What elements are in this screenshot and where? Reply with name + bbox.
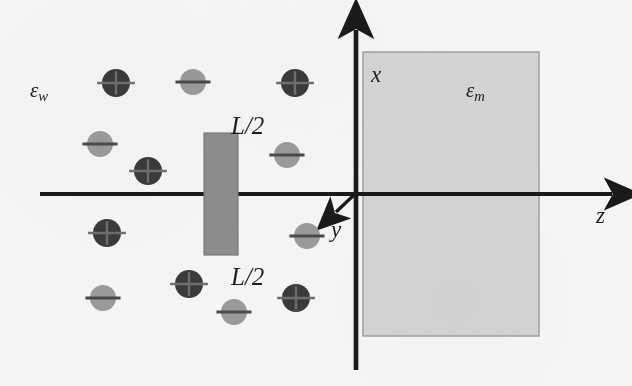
- y-axis-label: y: [331, 218, 341, 241]
- positive-charge-icon: [129, 157, 167, 185]
- epsilon-water-subscript: w: [38, 88, 48, 104]
- negative-charge-icon: [216, 299, 251, 325]
- physics-diagram-figure: εw εm L/2 L/2 x y z: [0, 0, 632, 386]
- diagram-canvas: [0, 0, 632, 386]
- positive-charge-icon: [276, 69, 314, 97]
- negative-charge-icon: [82, 131, 117, 157]
- length-label-top: L/2: [231, 113, 264, 138]
- epsilon-membrane-subscript: m: [474, 88, 485, 104]
- negative-charge-icon: [289, 223, 324, 249]
- epsilon-membrane-label: εm: [466, 80, 485, 104]
- x-axis-label: x: [371, 63, 381, 86]
- charged-slab-bar: [204, 133, 238, 255]
- epsilon-water-label: εw: [30, 80, 48, 104]
- negative-charge-icon: [269, 142, 304, 168]
- positive-charge-icon: [88, 219, 126, 247]
- negative-charge-icon: [175, 69, 210, 95]
- positive-charge-icon: [170, 270, 208, 298]
- z-axis-label: z: [596, 204, 605, 227]
- positive-charge-icon: [277, 284, 315, 312]
- negative-charge-icon: [85, 285, 120, 311]
- length-label-bottom: L/2: [231, 264, 264, 289]
- positive-charge-icon: [97, 69, 135, 97]
